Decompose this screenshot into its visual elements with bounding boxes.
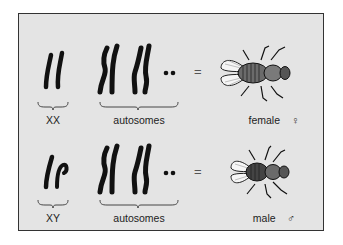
autosomes-label: autosomes [99,212,179,224]
female-label: female ♀ [244,114,304,126]
autosomes-icon [97,144,187,199]
autosomes-label: autosomes [99,114,179,126]
female-row: XX autosomes = [19,26,323,126]
male-fly-icon [229,144,299,200]
female-symbol-icon: ♀ [292,114,300,126]
male-row: XY autosomes = [19,126,323,226]
female-fly-icon [219,46,299,102]
autosomes-brace-icon [99,101,179,111]
xy-brace-icon [37,199,69,209]
xx-chromosomes-icon [43,51,73,96]
figure-panel: XX autosomes = [18,13,324,231]
xx-brace-icon [37,101,69,111]
male-text: male [253,212,276,224]
xy-label: XY [37,212,69,224]
equals-sign: = [194,164,202,179]
xy-chromosomes-icon [43,153,73,198]
male-label: male ♂ [244,212,304,224]
male-symbol-icon: ♂ [287,212,295,224]
autosomes-icon [97,44,187,99]
xx-label: XX [37,114,69,126]
equals-sign: = [194,64,202,79]
female-text: female [248,114,280,126]
autosomes-brace-icon [99,199,179,209]
